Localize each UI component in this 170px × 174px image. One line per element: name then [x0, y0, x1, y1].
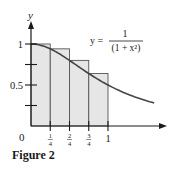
bar	[70, 60, 89, 126]
x-axis-arrow-icon	[159, 123, 167, 129]
y-axis-arrow-icon	[28, 21, 34, 29]
x-tick-denominator: 4	[68, 140, 72, 147]
x-tick-label: 1	[105, 133, 110, 144]
y-axis-label: y	[27, 9, 33, 21]
y-tick-label: 1	[18, 39, 23, 50]
figure-caption: Figure 2	[12, 148, 55, 163]
bars	[31, 44, 108, 126]
x-tick-numerator: 1	[49, 132, 52, 139]
x-tick-denominator: 4	[87, 140, 91, 147]
x-tick-numerator: 3	[87, 132, 90, 139]
equation-numerator: 1	[123, 28, 128, 39]
x-tick-numerator: 2	[68, 132, 71, 139]
y-tick-label: 0.5	[10, 80, 23, 91]
bar	[50, 49, 69, 126]
bar	[89, 74, 108, 126]
x-tick-denominator: 4	[49, 140, 53, 147]
equation-denominator: (1 + x²)	[112, 43, 141, 54]
origin-label: 0	[19, 131, 25, 143]
equation-lhs: y =	[90, 35, 104, 46]
equation: y = 1 (1 + x²)	[90, 28, 143, 54]
